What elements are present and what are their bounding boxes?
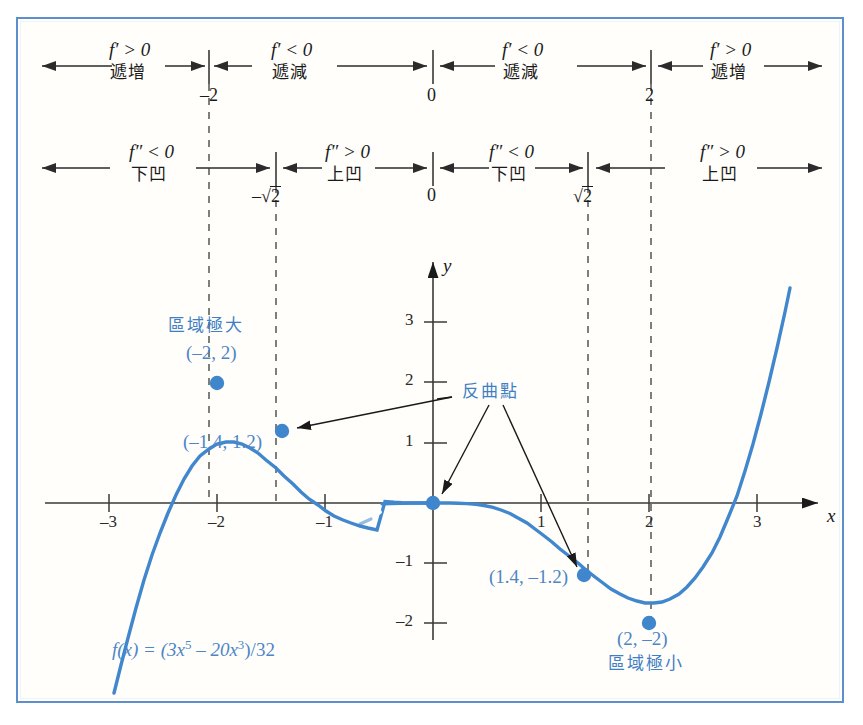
y-tick-label-neg1: –1 [396, 552, 413, 570]
graph-axes [45, 262, 818, 640]
second-chart-behavior-0: 下凹 [131, 166, 167, 184]
function-expression-mid: – 20x [191, 639, 237, 660]
point-inflection-right [577, 568, 591, 582]
figure-root: f′ > 0 遞增 f′ < 0 遞減 f′ < 0 遞減 f′ > 0 遞增 … [0, 0, 863, 725]
second-chart-behavior-2: 下凹 [491, 166, 527, 184]
second-chart-sign-0: f″ < 0 [129, 142, 174, 162]
x-tick-label-neg3: –3 [100, 513, 117, 531]
inflection-title: 反曲點 [462, 383, 519, 401]
second-chart-sign-2: f″ < 0 [489, 142, 534, 162]
y-axis-label: y [443, 256, 451, 276]
x-tick-label-3: 3 [753, 513, 762, 531]
function-expression: f(x) = (3x5 – 20x3)/32 [112, 638, 275, 660]
second-chart-critical-0: 0 [427, 186, 436, 205]
sign-chart-first-line [42, 50, 822, 84]
first-chart-critical-neg2: –2 [200, 86, 218, 105]
second-chart-critical-sqrt2: √2 [573, 186, 593, 206]
point-inflection-left [275, 424, 289, 438]
local-maximum-title: 區域極大 [168, 317, 244, 335]
first-chart-sign-0: f′ > 0 [109, 40, 150, 60]
first-chart-sign-1: f′ < 0 [271, 40, 312, 60]
x-tick-label-2: 2 [645, 513, 654, 531]
function-expression-tail: )/32 [244, 639, 275, 660]
y-tick-label-neg2: –2 [396, 612, 413, 630]
local-maximum-coord: (–2, 2) [186, 343, 237, 363]
point-inflection-origin [426, 496, 440, 510]
local-minimum-coord: (2, –2) [617, 629, 668, 649]
x-tick-label-neg1: –1 [316, 513, 333, 531]
point-local-maximum [210, 376, 224, 390]
x-axis-label: x [827, 506, 835, 526]
y-tick-label-3: 3 [405, 311, 414, 329]
x-tick-label-neg2: –2 [208, 513, 225, 531]
first-chart-behavior-1: 遞減 [272, 64, 308, 82]
first-chart-sign-2: f′ < 0 [502, 40, 543, 60]
figure-drawing [0, 0, 863, 725]
second-chart-behavior-3: 上凹 [702, 166, 738, 184]
second-chart-sign-3: f″ > 0 [700, 142, 745, 162]
y-tick-label-1: 1 [405, 432, 414, 450]
first-chart-behavior-3: 遞增 [711, 64, 747, 82]
second-chart-critical-neg-sqrt2: –√2 [252, 186, 281, 206]
function-expression-head: f(x) = (3x [112, 639, 185, 660]
first-chart-behavior-2: 遞減 [503, 64, 539, 82]
first-chart-critical-0: 0 [427, 86, 436, 105]
annotation-leaders [297, 397, 577, 567]
first-chart-sign-3: f′ > 0 [710, 40, 751, 60]
x-tick-label-1: 1 [537, 513, 546, 531]
y-tick-label-2: 2 [405, 371, 414, 389]
inflection-left-coord: (–1.4, 1.2) [183, 432, 262, 452]
inflection-right-coord: (1.4, –1.2) [489, 567, 568, 587]
second-chart-sign-1: f″ > 0 [325, 142, 370, 162]
first-chart-critical-2: 2 [645, 86, 654, 105]
second-chart-behavior-1: 上凹 [327, 166, 363, 184]
local-minimum-title: 區域極小 [608, 655, 684, 673]
first-chart-behavior-0: 遞增 [110, 64, 146, 82]
